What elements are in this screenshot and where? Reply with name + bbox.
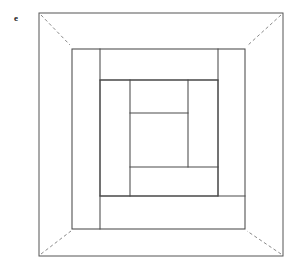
corner-diagonal-bottom-right-icon	[247, 231, 281, 254]
corner-diagonal-bottom-left-icon	[41, 231, 71, 254]
nested-rectangles-diagram	[0, 0, 300, 272]
corner-diagonal-top-right-icon	[247, 15, 281, 46]
corner-diagonal-top-left-icon	[41, 15, 70, 45]
second-frame-rect	[72, 49, 245, 229]
third-frame-rect	[100, 80, 218, 196]
figure-panel: e	[0, 0, 300, 272]
